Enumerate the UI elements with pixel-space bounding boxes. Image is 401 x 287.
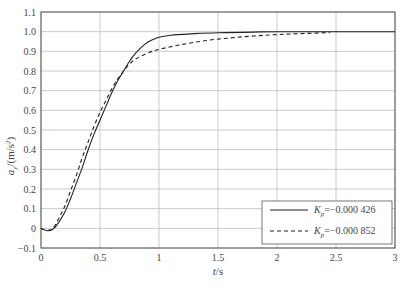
y-tick-label: 0.8 — [24, 66, 37, 77]
x-tick-label: 1 — [157, 252, 162, 263]
y-tick-label: 0 — [31, 223, 36, 234]
x-axis-ticks: 00.511.522.53 — [39, 252, 398, 263]
y-tick-label: 0.6 — [24, 105, 37, 116]
x-tick-label: 0 — [39, 252, 44, 263]
y-tick-label: 0.4 — [24, 144, 37, 155]
x-tick-label: 2.5 — [330, 252, 343, 263]
y-axis-ticks: −0.100.10.20.30.40.50.60.70.80.91.01.1 — [18, 7, 36, 254]
y-tick-label: −0.1 — [18, 243, 36, 254]
y-tick-label: 1.1 — [24, 7, 37, 18]
legend: Kp=−0.000 426 Kp=−0.000 852 — [262, 201, 392, 244]
y-tick-label: 0.1 — [24, 203, 37, 214]
x-tick-label: 3 — [393, 252, 398, 263]
line-chart: −0.100.10.20.30.40.50.60.70.80.91.01.1 0… — [0, 0, 401, 287]
y-tick-label: 0.9 — [24, 46, 37, 57]
y-tick-label: 1.0 — [24, 26, 37, 37]
x-tick-label: 2 — [275, 252, 280, 263]
y-tick-label: 0.3 — [24, 164, 37, 175]
x-tick-label: 0.5 — [94, 252, 107, 263]
x-axis-label: t/s — [213, 265, 223, 277]
y-tick-label: 0.2 — [24, 184, 37, 195]
y-tick-label: 0.7 — [24, 85, 37, 96]
x-tick-label: 1.5 — [212, 252, 225, 263]
y-axis-label: ay/(m/s2) — [4, 136, 19, 175]
y-tick-label: 0.5 — [24, 125, 37, 136]
